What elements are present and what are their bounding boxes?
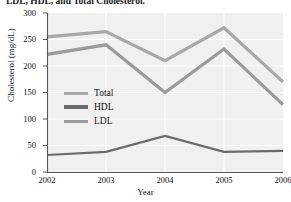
x-tick-label: 2002 [27, 175, 67, 185]
x-tick-label: 2005 [204, 175, 244, 185]
legend-label-ldl: LDL [94, 114, 112, 128]
legend-item-total: Total [64, 86, 114, 100]
cholesterol-line-chart: LDL, HDL, and Total Cholesterol. [0, 0, 291, 202]
legend-item-hdl: HDL [64, 100, 114, 114]
legend-swatch-ldl [64, 120, 88, 123]
x-tick-label: 2006 [263, 175, 291, 185]
legend-swatch-total [64, 92, 88, 95]
legend-item-ldl: LDL [64, 114, 114, 128]
x-tick-label: 2004 [145, 175, 185, 185]
legend-label-hdl: HDL [94, 100, 114, 114]
x-tick-label: 2003 [86, 175, 126, 185]
y-axis-title: Cholesterol (mg/dL) [6, 0, 16, 130]
plot-area-wrapper: 300 250 200 150 100 50 0 2002 2003 2004 … [0, 0, 291, 202]
plot-svg [0, 0, 291, 202]
legend-label-total: Total [94, 86, 113, 100]
x-axis-title: Year [0, 187, 291, 197]
legend-swatch-hdl [64, 105, 88, 109]
y-tick-label: 50 [8, 140, 36, 150]
y-tick-marks [43, 13, 47, 172]
chart-legend: Total HDL LDL [64, 86, 114, 128]
